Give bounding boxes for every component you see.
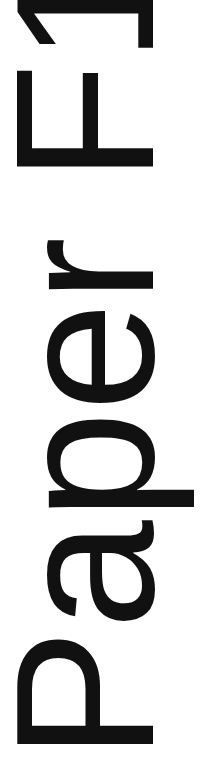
rotated-title: Paper F1 [0,0,184,760]
